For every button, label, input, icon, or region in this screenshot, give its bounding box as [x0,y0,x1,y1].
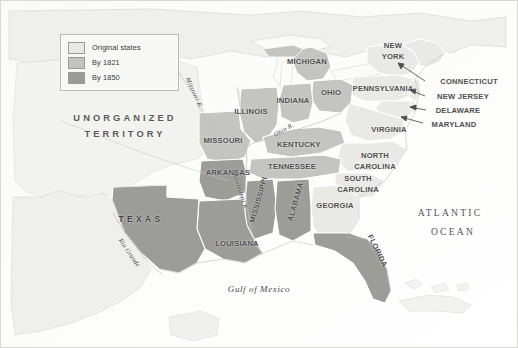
label-ocean: OCEAN [431,227,475,237]
label-delaware: DELAWARE [436,107,481,115]
legend-item-original: Original states [68,41,171,54]
label-missouri: MISSOURI [203,137,242,145]
map-legend: Original states By 1821 By 1850 [60,34,179,91]
label-ohio: OHIO [321,89,341,97]
label-kentucky: KENTUCKY [277,141,321,149]
legend-item-by1821: By 1821 [68,56,171,69]
label-michigan: MICHIGAN [287,58,327,66]
legend-label-original: Original states [92,43,141,52]
label-maryland: MARYLAND [432,121,477,129]
label-new-york-line1: NEW [384,42,402,50]
label-south-carolina-line1: SOUTH [344,175,372,183]
map-figure: Original states By 1821 By 1850 UNORGANI… [0,0,518,348]
label-tennessee: TENNESSEE [268,163,316,171]
legend-swatch-original [68,42,85,54]
label-new-york-line2: YORK [382,53,405,61]
label-virginia: VIRGINIA [371,126,406,134]
label-unorganized-territory-line2: TERRITORY [84,129,165,139]
label-arkansas: ARKANSAS [206,169,251,177]
label-gulf-of-mexico: Gulf of Mexico [228,285,290,295]
label-north-carolina-line2: CAROLINA [354,163,396,171]
label-illinois: ILLINOIS [234,108,268,116]
legend-swatch-by1850 [68,72,85,84]
label-louisiana: LOUISIANA [215,240,259,248]
legend-label-by1850: By 1850 [92,73,120,82]
legend-item-by1850: By 1850 [68,71,171,84]
label-texas: TEXAS [119,215,164,224]
yucatan-peninsula [169,311,219,341]
label-unorganized-territory-line1: UNORGANIZED [73,113,176,123]
legend-swatch-by1821 [68,57,85,69]
label-georgia: GEORGIA [316,202,353,210]
label-south-carolina-line2: CAROLINA [337,186,379,194]
label-new-jersey: NEW JERSEY [437,93,489,101]
legend-label-by1821: By 1821 [92,58,120,67]
label-north-carolina-line1: NORTH [361,152,389,160]
label-atlantic: ATLANTIC [418,208,483,218]
label-connecticut: CONNECTICUT [440,78,497,86]
label-indiana: INDIANA [276,97,309,105]
label-pennsylvania: PENNSYLVANIA [353,85,414,93]
